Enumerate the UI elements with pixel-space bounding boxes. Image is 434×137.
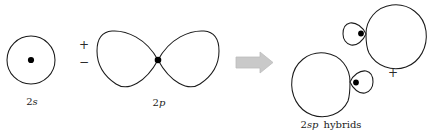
yields-arrow-shape: [236, 52, 273, 73]
hybrid-lower-large-lobe: [292, 53, 350, 117]
hybrid-upper-large-lobe: [366, 5, 426, 69]
s-orbital-label: 2s: [26, 96, 38, 107]
hybrid-upper-nucleus-dot: [358, 31, 364, 37]
minus-sign-between: −: [79, 55, 89, 69]
p-orbital-label: 2p: [153, 97, 166, 108]
hybrid-label-sp: sp: [307, 119, 319, 130]
s-orbital-group: [7, 36, 55, 84]
hybrid-orbitals-label: 2sphybrids: [301, 119, 362, 130]
hybrid-orbital-upper: [343, 5, 426, 69]
orbital-hybridization-diagram: + − +: [0, 0, 434, 137]
p-orbital-right-lobe: [158, 31, 219, 87]
p-orbital-group: [97, 31, 219, 87]
s-label-letter: s: [33, 96, 38, 107]
plus-sign-hybrids: +: [388, 66, 398, 80]
plus-sign-between: +: [79, 38, 89, 52]
hybrid-lower-nucleus-dot: [353, 80, 359, 86]
yields-arrow: [236, 52, 273, 73]
hybrid-orbital-lower: [292, 53, 373, 117]
p-orbital-nucleus-dot: [155, 57, 162, 64]
s-orbital-nucleus-dot: [28, 57, 34, 63]
hybrid-label-word: hybrids: [323, 119, 361, 130]
diagram-canvas: + − +: [0, 0, 434, 137]
p-orbital-left-lobe: [97, 31, 158, 87]
p-label-letter: p: [159, 97, 166, 108]
